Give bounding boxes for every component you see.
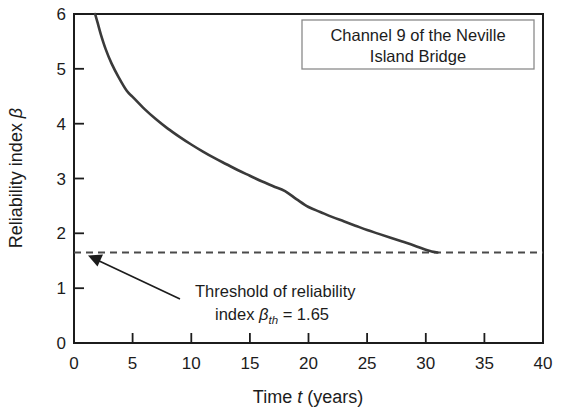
y-axis-title-italic: β (6, 108, 26, 119)
x-axis-title-post: (years) (302, 387, 363, 407)
y-axis-title-pre: Reliability index (6, 118, 26, 248)
x-axis-title-pre: Time (253, 387, 297, 407)
x-tick-label: 5 (128, 354, 137, 373)
annotation-line2-post: = 1.65 (278, 305, 329, 323)
x-tick-label: 40 (534, 354, 553, 373)
y-tick-label: 6 (57, 5, 66, 24)
title-line-1: Channel 9 of the Neville (330, 26, 505, 44)
x-tick-label: 20 (299, 354, 318, 373)
y-tick-label: 1 (57, 279, 66, 298)
x-tick-label: 15 (240, 354, 259, 373)
x-tick-label: 25 (358, 354, 377, 373)
x-tick-label: 10 (182, 354, 201, 373)
x-tick-label: 35 (475, 354, 494, 373)
title-box: Channel 9 of the Neville Island Bridge (302, 20, 534, 69)
y-tick-label: 3 (57, 170, 66, 189)
annotation-line-1: Threshold of reliability (195, 282, 356, 300)
x-tick-label: 0 (69, 354, 78, 373)
annotation-line2-pre: index (215, 305, 259, 323)
y-tick-label: 4 (57, 115, 66, 134)
y-tick-label: 2 (57, 224, 66, 243)
chart-canvas: 0 1 2 3 4 5 6 0 5 10 15 20 25 30 35 40 T… (0, 0, 564, 416)
x-tick-labels: 0 5 10 15 20 25 30 35 40 (69, 354, 552, 373)
x-tick-label: 30 (416, 354, 435, 373)
reliability-index-chart-figure: 0 1 2 3 4 5 6 0 5 10 15 20 25 30 35 40 T… (0, 0, 564, 416)
annotation-beta-symbol: β (258, 305, 269, 323)
annotation-beta-subscript: th (268, 314, 278, 326)
y-tick-label: 0 (57, 334, 66, 353)
title-line-2: Island Bridge (370, 47, 466, 65)
y-axis-title: Reliability index β (6, 108, 26, 248)
y-tick-labels: 0 1 2 3 4 5 6 (57, 5, 66, 353)
y-tick-label: 5 (57, 60, 66, 79)
x-axis-title: Time t (years) (253, 387, 363, 407)
